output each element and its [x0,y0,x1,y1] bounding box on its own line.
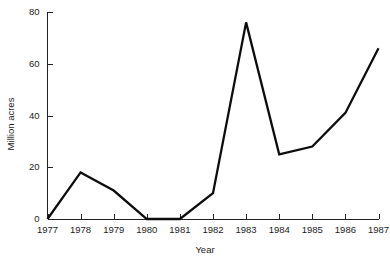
x-tick-label: 1985 [302,224,323,235]
x-axis-title: Year [195,244,214,255]
y-tick-label: 80 [29,6,40,17]
x-tick-label: 1981 [169,224,190,235]
x-tick-label: 1978 [70,224,91,235]
y-tick-label: 40 [29,110,40,121]
chart-background [0,0,390,268]
y-tick-label: 20 [29,161,40,172]
x-tick-label: 1980 [136,224,157,235]
x-tick-label: 1977 [37,224,58,235]
x-tick-label: 1983 [236,224,257,235]
y-tick-label: 60 [29,58,40,69]
x-tick-label: 1987 [368,224,389,235]
x-axis-tick-labels: 1977197819791980198119821983198419851986… [37,224,389,235]
x-tick-label: 1982 [202,224,223,235]
chart-canvas: 020406080 Million acres 1977197819791980… [0,0,390,268]
line-chart: 020406080 Million acres 1977197819791980… [0,0,390,268]
y-axis-title: Million acres [5,97,16,150]
y-tick-label: 0 [34,213,39,224]
x-tick-label: 1979 [103,224,124,235]
x-tick-label: 1984 [269,224,290,235]
x-tick-label: 1986 [335,224,356,235]
